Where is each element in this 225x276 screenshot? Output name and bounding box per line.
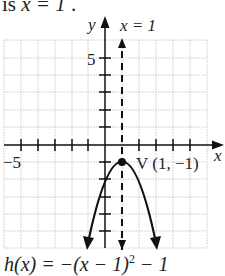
y-tick-label: 5 — [87, 50, 96, 69]
symmetry-label: x = 1 — [119, 16, 156, 35]
caption-function: h(x) = −(x − 1) — [4, 253, 129, 275]
function-caption: h(x) = −(x − 1)2 − 1 — [4, 252, 168, 276]
x-tick-label: −5 — [3, 153, 21, 172]
x-axis-label: x — [213, 146, 222, 165]
caption-tail: − 1 — [135, 253, 169, 275]
arrow-down-icon — [118, 240, 126, 250]
vertex-point — [118, 158, 126, 166]
arrow-up-icon — [118, 38, 126, 48]
y-axis-label: y — [86, 15, 96, 34]
parabola-graph: y x = 1 5 x −5 V (1, −1) — [0, 0, 225, 276]
vertex-label: V (1, −1) — [136, 154, 199, 173]
